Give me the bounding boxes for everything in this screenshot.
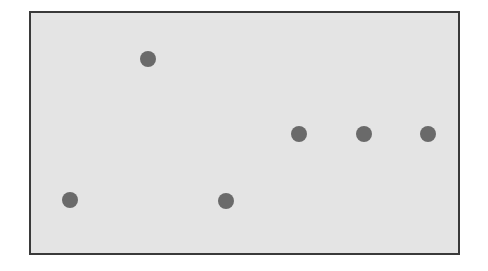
data-point — [420, 126, 436, 142]
data-point — [140, 51, 156, 67]
data-point — [291, 126, 307, 142]
plot-area — [31, 13, 458, 253]
data-point — [218, 193, 234, 209]
data-point — [62, 192, 78, 208]
plot-panel — [29, 11, 460, 255]
data-point — [356, 126, 372, 142]
